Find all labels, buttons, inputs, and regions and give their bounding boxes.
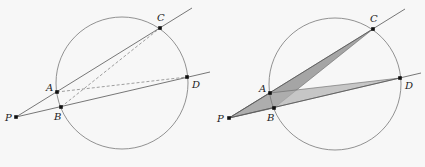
point-p — [14, 115, 18, 119]
label-c: C — [157, 12, 165, 23]
circle — [56, 17, 188, 149]
label-b: B — [53, 111, 61, 122]
point-b — [59, 105, 63, 109]
point-c — [158, 26, 162, 30]
point-a — [268, 91, 272, 95]
label-d: D — [404, 80, 413, 91]
secant-line-1 — [16, 8, 192, 117]
secant-line-2 — [16, 72, 210, 117]
label-d: D — [191, 79, 200, 90]
point-a — [55, 90, 59, 94]
figure-right-shaded-triangles: PABCD — [216, 9, 421, 150]
point-b — [272, 106, 276, 110]
secant-line-1 — [229, 9, 405, 118]
secant-line-2 — [229, 73, 421, 118]
label-c: C — [370, 13, 378, 24]
point-d — [398, 76, 402, 80]
point-d — [185, 75, 189, 79]
point-p — [227, 116, 231, 120]
point-c — [371, 27, 375, 31]
label-p: P — [4, 112, 12, 123]
geometry-canvas: PABCD PABCD — [0, 0, 425, 167]
label-p: P — [216, 113, 224, 124]
label-a: A — [258, 83, 266, 94]
figure-left-dashed-chords: PABCD — [4, 8, 210, 149]
label-a: A — [45, 82, 53, 93]
label-b: B — [266, 112, 274, 123]
